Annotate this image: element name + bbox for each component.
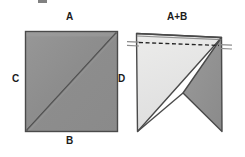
square-a-top-shade — [27, 33, 117, 37]
label-b: B — [66, 136, 73, 146]
label-c: C — [12, 74, 19, 84]
panel-folded-ab — [127, 34, 232, 132]
folding-diagram-figure: A A+B C D B — [0, 0, 245, 157]
panel-square-a — [26, 32, 118, 132]
label-d: D — [118, 74, 125, 84]
label-a: A — [66, 12, 73, 22]
fold-guide-tick-left-upper — [127, 42, 139, 43]
fold-guide-tick-left-lower — [127, 45, 139, 46]
label-a-plus-b: A+B — [167, 12, 187, 22]
fold-guide-tick-right-lower — [219, 48, 232, 49]
cropped-glyph-artifact — [38, 0, 47, 3]
fold-guide-tick-right-upper — [219, 45, 232, 46]
